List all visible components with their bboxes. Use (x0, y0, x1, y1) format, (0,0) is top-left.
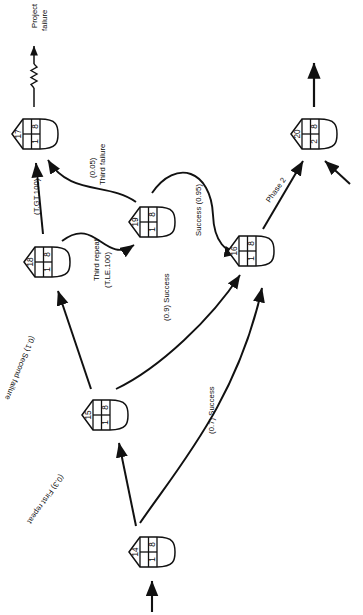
edge-entry-into-20 (325, 161, 350, 184)
edge-label-success-095: Success (0.95) (194, 184, 203, 236)
node-right-value: 8 (310, 124, 319, 129)
edge-15-to-16 (116, 275, 240, 389)
edge-label-third-failure-1: (0.05) (88, 158, 97, 178)
node-18[interactable]: 1818 (24, 247, 70, 277)
node-number: 15 (84, 410, 93, 420)
node-number: 19 (131, 217, 140, 227)
node-20[interactable]: 2028 (291, 119, 337, 149)
node-19[interactable]: 1918 (129, 207, 175, 237)
node-left-value: 1 (148, 227, 157, 232)
diagram-canvas: 1418151816181718181819182028 (0.3) First… (0, 0, 363, 615)
node-right-value: 8 (148, 542, 157, 547)
edge-label-third-repeat-1: Third repeat (92, 239, 101, 281)
edge-label-success-09: (0.9) Success (162, 273, 171, 321)
node-left-value: 1 (101, 420, 110, 425)
terminal-label-project-failure-1: Project (30, 4, 39, 28)
node-right-value: 8 (43, 252, 52, 257)
node-number: 17 (14, 129, 23, 139)
node-left-value: 1 (247, 256, 256, 261)
node-left-value: 1 (43, 267, 52, 272)
node-number: 16 (230, 246, 239, 256)
node-right-value: 8 (148, 212, 157, 217)
node-right-value: 8 (31, 124, 40, 129)
terminal-label-project-failure-2: failure (40, 10, 49, 31)
node-15[interactable]: 1518 (82, 400, 128, 430)
edge-14-to-15 (119, 443, 136, 526)
edge-label-t-gt-100: (T.GT.100) (32, 179, 41, 215)
node-number: 20 (293, 129, 302, 139)
node-right-value: 8 (101, 405, 110, 410)
node-14[interactable]: 1418 (129, 537, 175, 567)
node-left-value: 2 (310, 139, 319, 144)
edge-label-third-failure-2: Third failure (98, 144, 107, 185)
node-number: 14 (131, 547, 140, 557)
node-right-value: 8 (247, 241, 256, 246)
network-diagram-svg: 1418151816181718181819182028 (0, 0, 363, 615)
node-16[interactable]: 1618 (228, 236, 274, 266)
node-left-value: 1 (31, 139, 40, 144)
edge-label-success-07: (0.7) Success (207, 386, 216, 434)
zigzag-icon (31, 64, 37, 88)
edge-label-third-repeat-2: (T.LE.100) (103, 252, 112, 288)
edge-15-to-18 (58, 291, 91, 389)
node-17[interactable]: 1718 (12, 119, 58, 149)
node-left-value: 1 (148, 557, 157, 562)
node-number: 18 (26, 257, 35, 267)
